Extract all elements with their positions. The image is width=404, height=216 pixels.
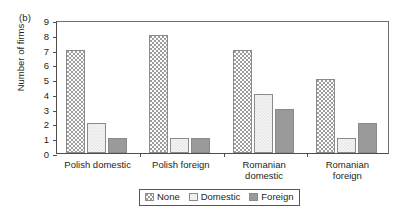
- y-axis-tick-label: 3: [35, 106, 49, 116]
- y-axis-tick-label: 8: [35, 32, 49, 42]
- bar-none-3: [316, 79, 335, 153]
- x-axis-tick: [224, 153, 225, 157]
- x-axis-category-label: Polish foreign: [139, 159, 222, 170]
- figure-panel-b: (b) Number of firms 0123456789 Polish do…: [0, 0, 404, 216]
- y-axis-tick: [53, 111, 57, 112]
- y-axis-tick-label: 2: [35, 120, 49, 130]
- legend-swatch-none-icon: [145, 193, 154, 201]
- legend-item-none[interactable]: None: [145, 192, 180, 202]
- x-axis-category-label: Polish domestic: [56, 159, 139, 170]
- chart-legend: NoneDomesticForeign: [139, 189, 300, 206]
- y-axis-tick-label: 7: [35, 47, 49, 57]
- y-axis-tick-label: 1: [35, 135, 49, 145]
- x-axis-tick: [140, 153, 141, 157]
- legend-label: Domestic: [201, 192, 241, 202]
- legend-swatch-domestic-icon: [189, 193, 198, 201]
- y-axis-tick-label: 4: [35, 91, 49, 101]
- bar-none-0: [66, 50, 85, 153]
- y-axis-tick-label: 5: [35, 76, 49, 86]
- y-axis-tick: [53, 66, 57, 67]
- y-axis-tick: [53, 52, 57, 53]
- y-axis-tick: [53, 37, 57, 38]
- y-axis-tick: [53, 125, 57, 126]
- legend-swatch-foreign-icon: [249, 193, 258, 201]
- legend-label: None: [157, 192, 180, 202]
- bar-none-1: [149, 35, 168, 153]
- x-axis-tick: [307, 153, 308, 157]
- x-axis-category-label: Romanian foreign: [306, 159, 389, 181]
- plot-area: 0123456789: [56, 21, 389, 154]
- y-axis-title: Number of firms: [15, 8, 26, 108]
- bar-foreign-2: [275, 109, 294, 153]
- bar-none-2: [233, 50, 252, 153]
- bar-domestic-3: [337, 138, 356, 153]
- y-axis-tick: [53, 140, 57, 141]
- legend-label: Foreign: [261, 192, 293, 202]
- y-axis-tick: [53, 22, 57, 23]
- y-axis-tick: [53, 81, 57, 82]
- bar-foreign-1: [191, 138, 210, 153]
- y-axis-tick-label: 9: [35, 17, 49, 27]
- y-axis-tick: [53, 155, 57, 156]
- legend-item-foreign[interactable]: Foreign: [249, 192, 293, 202]
- y-axis-tick-label: 0: [35, 150, 49, 160]
- y-axis-tick: [53, 96, 57, 97]
- bar-domestic-2: [254, 94, 273, 153]
- bar-domestic-1: [170, 138, 189, 153]
- x-axis-category-label: Romanian domestic: [223, 159, 306, 181]
- bar-domestic-0: [87, 123, 106, 153]
- legend-item-domestic[interactable]: Domestic: [189, 192, 241, 202]
- bar-foreign-0: [108, 138, 127, 153]
- y-axis-tick-label: 6: [35, 61, 49, 71]
- bar-foreign-3: [358, 123, 377, 153]
